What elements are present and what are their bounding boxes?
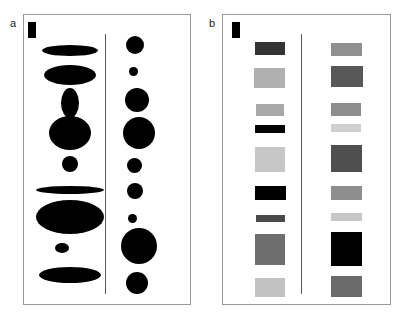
figure-canvas: a b <box>0 0 402 315</box>
swatch-right-1 <box>331 43 362 56</box>
swatch-right-4 <box>331 124 361 132</box>
ellipse-left-8 <box>55 243 69 253</box>
ellipse-left-1 <box>42 45 98 56</box>
circle-right-6 <box>127 183 143 199</box>
swatch-right-2 <box>331 66 363 87</box>
ellipse-left-5 <box>62 156 78 172</box>
swatch-right-3 <box>331 103 361 116</box>
panel-a <box>23 14 191 305</box>
swatch-left-9 <box>255 278 285 297</box>
panel-label-a: a <box>10 18 16 29</box>
swatch-left-4 <box>255 125 285 133</box>
swatch-left-2 <box>254 68 285 88</box>
swatch-left-3 <box>256 104 284 116</box>
ellipse-left-9 <box>39 267 101 283</box>
scale-bar-a <box>28 22 36 38</box>
swatch-left-8 <box>255 234 285 265</box>
panel-b-column-divider <box>301 34 302 294</box>
circle-right-2 <box>129 67 138 76</box>
swatch-right-7 <box>331 213 362 221</box>
swatch-right-8 <box>331 232 362 266</box>
circle-right-1 <box>126 36 144 54</box>
circle-right-3 <box>125 88 149 112</box>
swatch-left-6 <box>255 186 286 200</box>
ellipse-left-2 <box>44 65 96 85</box>
circle-right-7 <box>128 214 137 223</box>
ellipse-left-4 <box>49 116 91 150</box>
swatch-right-5 <box>331 145 362 172</box>
ellipse-left-6 <box>36 186 104 194</box>
circle-right-9 <box>126 272 148 294</box>
ellipse-left-7 <box>36 200 104 234</box>
circle-right-4 <box>123 117 155 149</box>
swatch-right-9 <box>331 276 362 297</box>
swatch-left-5 <box>255 147 285 172</box>
swatch-right-6 <box>331 186 362 200</box>
panel-b <box>222 14 391 305</box>
circle-right-5 <box>127 158 142 173</box>
panel-label-b: b <box>209 18 215 29</box>
circle-right-8 <box>121 228 157 264</box>
swatch-left-1 <box>255 42 285 55</box>
scale-bar-b <box>232 22 240 38</box>
panel-a-column-divider <box>105 34 106 294</box>
swatch-left-7 <box>256 215 285 222</box>
ellipse-left-3 <box>61 88 79 118</box>
